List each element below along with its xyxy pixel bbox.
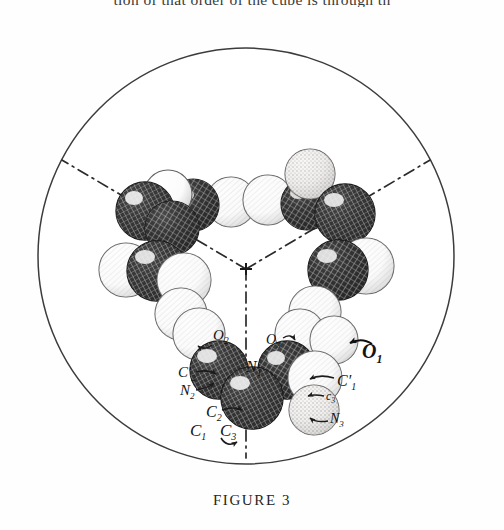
figure-svg: O2 O3 O1 N1 C′1 xyxy=(0,18,504,488)
figure-caption: FIGURE 3 xyxy=(0,492,504,509)
figure-page: tion of that order of the cube is throug… xyxy=(0,0,504,530)
running-body-text: tion of that order of the cube is throug… xyxy=(0,0,504,7)
figure-illustration: O2 O3 O1 N1 C′1 xyxy=(0,18,504,488)
